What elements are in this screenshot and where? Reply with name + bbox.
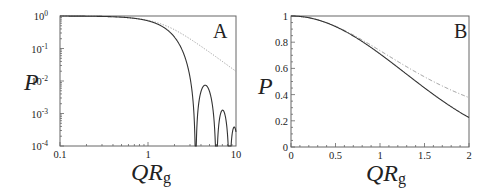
panel-a: 0.111010010-110-210-310-4 A P QRg (23, 9, 241, 187)
panel-b-x-label: QRg (366, 160, 406, 188)
panel-a-frame (60, 16, 236, 146)
x-tick-label: 0 (288, 150, 293, 161)
panel-a-ticks (60, 17, 232, 146)
x-tick-label: 10 (231, 149, 242, 160)
y-tick-label: 100 (34, 9, 49, 22)
panel-b-ticks (291, 16, 469, 147)
panel-b-solid-curve (291, 16, 469, 118)
panel-a-letter: A (213, 20, 228, 42)
panel-a-tick-labels: 0.111010010-110-210-310-4 (31, 9, 241, 160)
x-tick-label: 2 (466, 150, 471, 161)
panel-b-letter: B (454, 20, 467, 42)
panel-b-frame (291, 16, 469, 147)
panel-a-y-label: P (23, 69, 39, 95)
panel-b-dashed-curve (291, 16, 469, 98)
y-tick-label: 0.4 (275, 90, 289, 101)
y-tick-label: 0.8 (275, 37, 288, 48)
panel-b-y-label: P (257, 73, 273, 99)
y-tick-label: 0.6 (275, 63, 288, 74)
figure: 0.111010010-110-210-310-4 A P QRg 00.511… (0, 0, 496, 194)
panel-a-solid-curve (60, 16, 236, 146)
y-tick-label: 1 (283, 11, 288, 22)
x-tick-label: 0.1 (53, 149, 66, 160)
panel-b: 00.511.5200.20.40.60.81 B P QRg (257, 11, 472, 188)
y-tick-label: 0.2 (275, 116, 288, 127)
panel-a-x-label: QRg (131, 159, 171, 187)
y-tick-label: 0 (283, 142, 288, 153)
y-tick-label: 10-1 (31, 42, 48, 55)
y-tick-label: 10-4 (31, 139, 48, 152)
panel-a-dotted-curve (60, 16, 236, 71)
x-tick-label: 0.5 (329, 150, 342, 161)
y-tick-label: 10-3 (31, 107, 48, 120)
x-tick-label: 1.5 (418, 150, 431, 161)
